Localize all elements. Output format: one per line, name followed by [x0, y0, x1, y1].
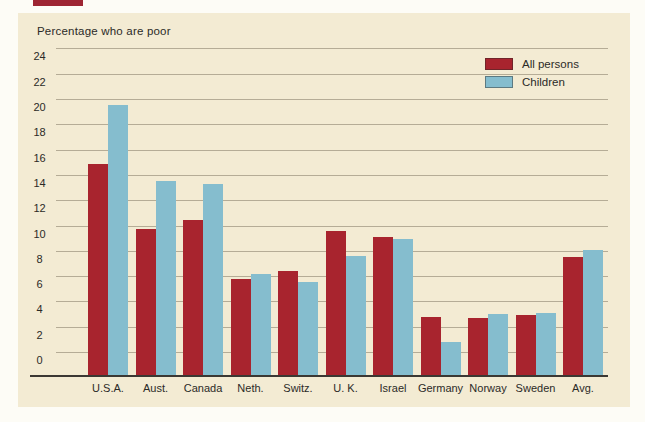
- legend-swatch-all-persons: [485, 58, 513, 70]
- chart-panel: Percentage who are poor 2422201816141210…: [18, 13, 630, 407]
- y-tick-label-16: 16: [25, 153, 54, 164]
- chart-title: Percentage who are poor: [37, 25, 171, 37]
- gridline-14: [56, 175, 608, 176]
- legend-label-all-persons: All persons: [522, 58, 579, 70]
- gridline-24: [56, 48, 608, 49]
- gridline-16: [56, 150, 608, 151]
- bar-norway-all-persons: [468, 318, 488, 375]
- bar-canada-children: [203, 184, 223, 375]
- bar-aust-all-persons: [136, 229, 156, 375]
- bar-aust-children: [156, 181, 176, 375]
- y-tick-label-14: 14: [25, 178, 54, 189]
- legend-label-children: Children: [522, 76, 565, 88]
- bar-israel-children: [393, 239, 413, 375]
- bar-germany-all-persons: [421, 317, 441, 375]
- y-tick-label-22: 22: [25, 77, 54, 88]
- bar-switz-all-persons: [278, 271, 298, 375]
- gridline-20: [56, 99, 608, 100]
- gridline-18: [56, 124, 608, 125]
- bar-switz-children: [298, 282, 318, 375]
- y-tick-label-6: 6: [25, 279, 54, 290]
- bar-neth-all-persons: [231, 279, 251, 375]
- y-tick-label-0: 0: [25, 355, 54, 366]
- y-tick-label-20: 20: [25, 102, 54, 113]
- bar-u-s-a-children: [108, 105, 128, 375]
- chart-figure: Percentage who are poor 2422201816141210…: [0, 0, 645, 422]
- bar-avg-all-persons: [563, 257, 583, 375]
- y-tick-label-12: 12: [25, 203, 54, 214]
- x-axis-line: [30, 375, 608, 377]
- gridline-10: [56, 226, 608, 227]
- legend-item-all-persons: All persons: [485, 57, 579, 70]
- bar-u-k-all-persons: [326, 231, 346, 375]
- y-tick-label-18: 18: [25, 127, 54, 138]
- bar-canada-all-persons: [183, 220, 203, 375]
- y-tick-label-8: 8: [25, 254, 54, 265]
- bar-u-s-a-all-persons: [88, 164, 108, 375]
- legend-item-children: Children: [485, 75, 565, 88]
- bar-avg-children: [583, 250, 603, 375]
- bar-u-k-children: [346, 256, 366, 375]
- y-tick-label-10: 10: [25, 229, 54, 240]
- bar-israel-all-persons: [373, 237, 393, 375]
- y-tick-label-2: 2: [25, 330, 54, 341]
- bar-neth-children: [251, 274, 271, 375]
- x-category-label-avg: Avg.: [547, 382, 619, 394]
- legend-swatch-children: [485, 76, 513, 88]
- bar-sweden-children: [536, 313, 556, 375]
- y-tick-label-24: 24: [25, 51, 54, 62]
- bar-sweden-all-persons: [516, 315, 536, 375]
- bar-norway-children: [488, 314, 508, 375]
- gridline-12: [56, 200, 608, 201]
- y-tick-label-4: 4: [25, 304, 54, 315]
- bar-germany-children: [441, 342, 461, 375]
- page-accent-strip: [33, 0, 83, 6]
